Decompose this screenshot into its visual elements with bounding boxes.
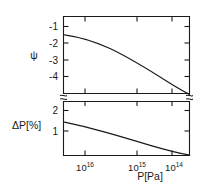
scientific-figure: -1 -2 -3 -4 ψ	[0, 0, 202, 190]
x-axis-label: P[Pa]	[137, 170, 163, 182]
lower-panel: 2 1 ΔP[%]	[12, 102, 190, 156]
upper-panel: -1 -2 -3 -4 ψ	[30, 17, 189, 95]
lower-y-ticks	[64, 111, 69, 132]
upper-ytick-label-1: -1	[49, 21, 58, 32]
axis-break-marks	[61, 95, 193, 99]
lower-x-ticks-top	[85, 102, 172, 107]
lower-ytick-label-2: 2	[52, 105, 58, 116]
delta-p-curve	[65, 122, 190, 155]
xtick-exponent-2: 15	[139, 161, 147, 168]
upper-y-ticks-right	[185, 27, 190, 77]
lower-y-ticks-right	[185, 111, 190, 132]
upper-y-ticks	[64, 27, 69, 77]
axis-break-right	[187, 95, 193, 99]
figure-canvas: -1 -2 -3 -4 ψ	[0, 0, 202, 190]
xtick-label-1e14: 1014	[165, 161, 183, 173]
x-axis-tick-labels: 1016 1015 1014	[76, 161, 183, 173]
lower-ytick-label-1: 1	[52, 126, 58, 137]
lower-x-ticks-bottom	[85, 151, 172, 156]
upper-x-ticks-bottom	[85, 89, 172, 94]
upper-y-axis-label: ψ	[30, 49, 38, 61]
xtick-base-3: 10	[165, 162, 176, 173]
xtick-exponent-3: 14	[176, 161, 184, 168]
psi-curve	[65, 35, 190, 95]
axis-break-left	[61, 95, 67, 99]
lower-panel-frame	[64, 102, 190, 156]
upper-panel-frame	[64, 17, 190, 94]
upper-ytick-label-2: -2	[49, 38, 58, 49]
upper-ytick-label-4: -4	[49, 71, 58, 82]
xtick-base-1: 10	[76, 162, 87, 173]
upper-x-ticks-top	[85, 17, 172, 22]
upper-ytick-label-3: -3	[49, 55, 58, 66]
xtick-label-1e16: 1016	[76, 161, 94, 173]
xtick-exponent-1: 16	[87, 161, 95, 168]
lower-y-axis-label: ΔP[%]	[12, 119, 41, 131]
